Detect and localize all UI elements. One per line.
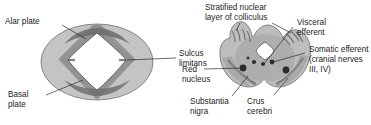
label-crus-cerebri-line1: Crus	[247, 97, 264, 106]
label-red-nucleus-line2: nucleus	[182, 75, 210, 84]
anatomy-figure: Alar plate Sulcus limitans Basal plate	[0, 0, 371, 125]
figure-canvas: Alar plate Sulcus limitans Basal plate	[0, 0, 371, 125]
visceral-efferent-nucleus-left	[252, 60, 256, 64]
visceral-efferent-nucleus-small	[246, 56, 249, 59]
label-basal-plate-line1: Basal	[8, 90, 29, 99]
label-visceral-efferent-line1: Visceral	[297, 18, 326, 27]
label-basal-plate-line2: plate	[8, 100, 26, 109]
label-crus-cerebri-line2: cerebri	[247, 107, 272, 116]
label-somatic-efferent-line1: Somatic efferent	[309, 45, 369, 54]
label-somatic-efferent-line3: III, IV)	[309, 65, 331, 74]
label-visceral-efferent-line2: efferent	[297, 28, 325, 37]
red-nucleus-right	[283, 67, 290, 74]
label-substantia-nigra-line1: Substantia	[190, 97, 229, 106]
label-stratified-line1: Stratified nuclear	[205, 3, 267, 12]
label-substantia-nigra-line2: nigra	[190, 107, 209, 116]
left-panel-neural-tube: Alar plate Sulcus limitans Basal plate	[5, 17, 207, 109]
label-somatic-efferent-line2: (cranial nerves	[309, 55, 363, 64]
right-panel-midbrain: Stratified nuclear layer of colliculus V…	[182, 3, 369, 116]
label-stratified-line2: layer of colliculus	[205, 13, 267, 22]
label-red-nucleus-line1: Red	[182, 65, 197, 74]
label-alar-plate: Alar plate	[5, 17, 40, 26]
label-sulcus-limitans-line1: Sulcus	[179, 49, 204, 58]
